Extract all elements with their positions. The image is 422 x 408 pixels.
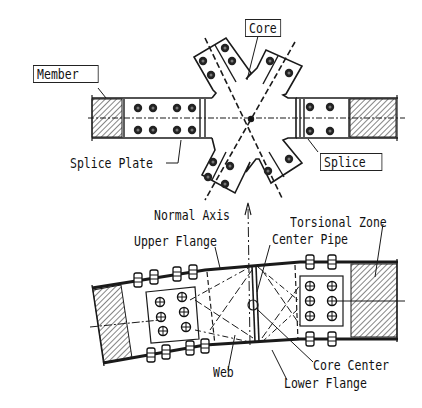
side-bolts: [134, 255, 337, 362]
leader-center-pipe: [257, 245, 270, 292]
label-splice-plate: Splice Plate: [70, 155, 153, 171]
diagram-canvas: [0, 0, 422, 408]
leader-core-center: [258, 310, 313, 362]
label-member: Member: [33, 65, 99, 83]
label-normal-axis: Normal Axis: [154, 207, 230, 223]
core-outline: [194, 38, 302, 193]
top-view: [88, 38, 405, 200]
label-core: Core: [245, 19, 281, 37]
leader-member: [98, 88, 106, 98]
label-web: Web: [213, 364, 234, 380]
label-core-center: Core Center: [313, 357, 389, 373]
leader-upper-flange: [215, 247, 220, 268]
label-splice: Splice: [320, 153, 382, 171]
label-torsional-zone: Torsional Zone: [290, 214, 387, 230]
label-center-pipe: Center Pipe: [272, 231, 348, 247]
leader-splice-plate: [166, 140, 181, 163]
leader-splice: [308, 139, 318, 152]
label-upper-flange: Upper Flange: [134, 233, 217, 249]
label-lower-flange: Lower Flange: [284, 375, 367, 391]
